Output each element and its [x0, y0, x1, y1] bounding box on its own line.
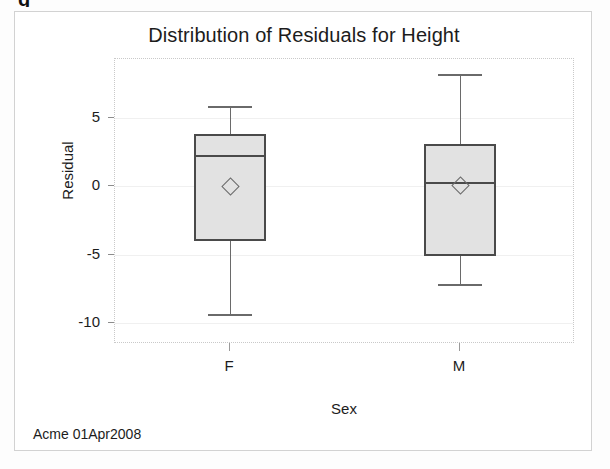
y-tick-label: 5 [54, 108, 100, 125]
footer-note: Acme 01Apr2008 [33, 426, 141, 442]
y-tick-label: 0 [54, 176, 100, 193]
y-tick-label: -5 [54, 245, 100, 262]
plot-area [114, 58, 574, 343]
y-tick-mark [108, 322, 114, 323]
whisker-upper [460, 74, 461, 144]
page-title: Distribution of Residuals for Height [15, 24, 593, 47]
whisker-cap-upper [438, 74, 482, 76]
whisker-lower [460, 256, 461, 283]
whisker-cap-lower [208, 314, 252, 316]
median-line [194, 155, 266, 157]
x-tick-mark [229, 343, 230, 351]
gridline [115, 323, 573, 324]
x-tick-mark [459, 343, 460, 351]
y-tick-mark [108, 117, 114, 118]
whisker-upper [230, 106, 231, 135]
gridline [115, 118, 573, 119]
gridline [115, 186, 573, 187]
y-tick-label: -10 [54, 313, 100, 330]
x-axis-title: Sex [114, 400, 574, 417]
scanned-page: g Distribution of Residuals for Height R… [0, 0, 610, 469]
whisker-cap-upper [208, 106, 252, 108]
y-tick-mark [108, 185, 114, 186]
whisker-lower [230, 241, 231, 314]
box-m [424, 144, 496, 256]
gridline [115, 255, 573, 256]
x-tick-label: F [199, 357, 259, 374]
x-tick-label: M [429, 357, 489, 374]
y-tick-mark [108, 254, 114, 255]
cropped-glyph: g [18, 0, 44, 7]
figure-frame: Distribution of Residuals for Height Res… [14, 11, 592, 451]
whisker-cap-lower [438, 284, 482, 286]
